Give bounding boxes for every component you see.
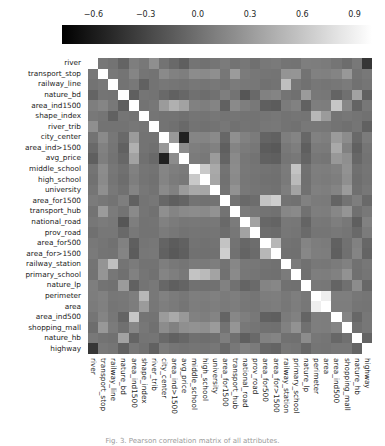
heatmap-cell	[271, 248, 281, 259]
x-axis-tick-label-text: perimeter	[312, 358, 320, 394]
heatmap-cell	[149, 132, 159, 143]
y-axis-tick-label: university	[0, 185, 85, 196]
heatmap-cell	[311, 206, 321, 217]
heatmap-cell	[321, 343, 331, 354]
heatmap-cell	[139, 195, 149, 206]
heatmap-cell	[200, 100, 210, 111]
heatmap-cell	[189, 153, 199, 164]
heatmap-cell	[129, 90, 139, 101]
heatmap-cell	[189, 174, 199, 185]
heatmap-cell	[281, 100, 291, 111]
heatmap-cell	[311, 79, 321, 90]
heatmap-cell	[250, 301, 260, 312]
heatmap-cell	[230, 217, 240, 228]
heatmap-cell	[342, 153, 352, 164]
x-axis-tick-label-text: transport_hub	[231, 358, 239, 409]
heatmap-cell	[321, 79, 331, 90]
heatmap-cell	[220, 195, 230, 206]
heatmap-cell	[149, 90, 159, 101]
heatmap-cell	[169, 291, 179, 302]
heatmap-cell	[149, 100, 159, 111]
heatmap-cell	[129, 248, 139, 259]
heatmap-cell	[362, 301, 372, 312]
heatmap-cell	[331, 280, 341, 291]
heatmap-cell	[311, 312, 321, 323]
heatmap-cell	[88, 312, 98, 323]
heatmap-cell	[352, 153, 362, 164]
heatmap-cell	[179, 206, 189, 217]
heatmap-cell	[169, 185, 179, 196]
heatmap-cell	[301, 132, 311, 143]
heatmap-cell	[189, 206, 199, 217]
heatmap-cell	[230, 164, 240, 175]
heatmap-cell	[321, 164, 331, 175]
heatmap-cell	[200, 301, 210, 312]
heatmap-cell	[98, 269, 108, 280]
heatmap-cell	[118, 164, 128, 175]
heatmap-cell	[271, 291, 281, 302]
heatmap-cell	[362, 58, 372, 69]
heatmap-cell	[342, 322, 352, 333]
heatmap-cell	[159, 143, 169, 154]
heatmap-cell	[291, 185, 301, 196]
heatmap-cell	[321, 143, 331, 154]
heatmap-cell	[118, 238, 128, 249]
heatmap-cell	[250, 195, 260, 206]
heatmap-cell	[271, 322, 281, 333]
heatmap-cell	[149, 69, 159, 80]
heatmap-cell	[220, 343, 230, 354]
heatmap-cell	[189, 248, 199, 259]
heatmap-cell	[108, 100, 118, 111]
heatmap-cell	[108, 343, 118, 354]
heatmap-cell	[250, 206, 260, 217]
heatmap-cell	[220, 301, 230, 312]
heatmap-cell	[230, 121, 240, 132]
heatmap-cell	[98, 195, 108, 206]
heatmap-cell	[240, 312, 250, 323]
heatmap-cell	[88, 90, 98, 101]
heatmap-cell	[210, 69, 220, 80]
heatmap-cell	[179, 90, 189, 101]
heatmap-cell	[291, 90, 301, 101]
heatmap-cell	[169, 132, 179, 143]
heatmap-cell	[108, 291, 118, 302]
heatmap-cell	[210, 291, 220, 302]
heatmap-cell	[301, 312, 311, 323]
heatmap-cell	[200, 121, 210, 132]
heatmap-cell	[271, 111, 281, 122]
heatmap-cell	[342, 217, 352, 228]
y-axis-tick-label: perimeter	[0, 291, 85, 302]
heatmap-cell	[281, 269, 291, 280]
heatmap-cell	[240, 280, 250, 291]
heatmap-cell	[250, 164, 260, 175]
heatmap-cell	[260, 333, 270, 344]
heatmap-cell	[159, 206, 169, 217]
x-axis-tick-labels: rivertransport_stoprailway_linenature_bd…	[88, 356, 372, 442]
heatmap-cell	[159, 132, 169, 143]
x-axis-tick-label-text: river_trib	[150, 358, 158, 391]
x-axis-tick-label-text: shopping_mall	[343, 358, 351, 411]
heatmap-cell	[331, 153, 341, 164]
heatmap-cell	[250, 185, 260, 196]
heatmap-cell	[169, 227, 179, 238]
heatmap-cell	[250, 69, 260, 80]
heatmap-cell	[220, 79, 230, 90]
heatmap-cell	[98, 69, 108, 80]
x-axis-tick-label: area_for500	[260, 356, 270, 442]
heatmap-cell	[118, 174, 128, 185]
heatmap-cell	[189, 164, 199, 175]
heatmap-cell	[169, 79, 179, 90]
heatmap-cell	[260, 291, 270, 302]
heatmap-cell	[362, 79, 372, 90]
heatmap-cell	[129, 280, 139, 291]
heatmap-cell	[220, 238, 230, 249]
heatmap-cell	[189, 322, 199, 333]
heatmap-cell	[331, 121, 341, 132]
heatmap-cell	[159, 121, 169, 132]
heatmap-cell	[362, 195, 372, 206]
heatmap-cell	[159, 269, 169, 280]
heatmap-cell	[342, 121, 352, 132]
heatmap-cell	[301, 121, 311, 132]
heatmap-cell	[108, 280, 118, 291]
heatmap-cell	[362, 100, 372, 111]
